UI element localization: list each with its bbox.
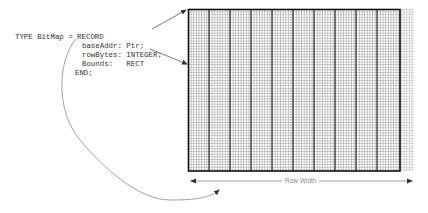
- bitmap-grid: [188, 9, 400, 171]
- bitmap-diagram: [0, 0, 428, 213]
- bounds-pointer-arrow: [150, 49, 187, 64]
- row-padding-area: [400, 9, 414, 171]
- baseaddr-pointer-arrow: [152, 10, 186, 29]
- row-width-label: Row Width: [282, 177, 319, 184]
